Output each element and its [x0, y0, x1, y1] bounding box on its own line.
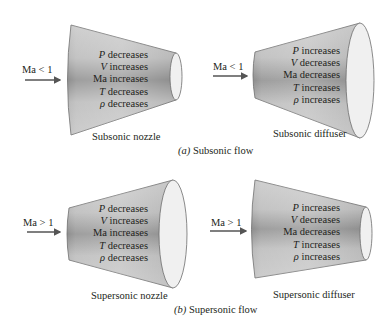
property-row: P decreases [92, 49, 148, 61]
device-label-subsonic-nozzle: Subsonic nozzle [92, 131, 161, 143]
inlet-label-supersonic-diffuser: Ma > 1 [211, 217, 241, 228]
property-row: ρ increases [280, 251, 340, 263]
panel-letter-a: (a) [178, 145, 190, 156]
panel-caption-a: (a) Subsonic flow [178, 145, 253, 156]
panel-title-a: Subsonic flow [190, 145, 253, 156]
inlet-label-subsonic-nozzle: Ma < 1 [22, 64, 52, 75]
property-row: V decreases [280, 57, 340, 69]
device-label-subsonic-diffuser: Subsonic diffuser [273, 128, 347, 140]
property-list-subsonic-nozzle: P decreases V increases Ma increases T d… [92, 49, 148, 110]
property-row: T decreases [92, 240, 148, 252]
property-row: T increases [280, 82, 340, 94]
panel-title-b: Supersonic flow [186, 304, 257, 315]
panel-caption-b: (b) Supersonic flow [174, 304, 257, 315]
device-label-supersonic-diffuser: Supersonic diffuser [273, 289, 355, 301]
property-list-subsonic-diffuser: P increases V decreases Ma decreases T i… [280, 45, 340, 106]
panel-letter-b: (b) [174, 304, 186, 315]
property-list-supersonic-diffuser: P increases V decreases Ma decreases T i… [280, 202, 340, 263]
inlet-label-supersonic-nozzle: Ma > 1 [23, 217, 53, 228]
property-row: P increases [280, 202, 340, 214]
property-row: P decreases [92, 203, 148, 215]
property-row: ρ decreases [92, 98, 148, 110]
property-row: Ma increases [92, 227, 148, 239]
inlet-label-subsonic-diffuser: Ma < 1 [213, 61, 243, 72]
property-row: V increases [92, 61, 148, 73]
property-row: Ma increases [92, 73, 148, 85]
property-row: V increases [92, 215, 148, 227]
property-row: Ma decreases [280, 69, 340, 81]
property-row: T increases [280, 239, 340, 251]
property-list-supersonic-nozzle: P decreases V increases Ma increases T d… [92, 203, 148, 264]
property-row: Ma decreases [280, 226, 340, 238]
device-label-supersonic-nozzle: Supersonic nozzle [91, 290, 168, 302]
property-row: V decreases [280, 214, 340, 226]
property-row: ρ increases [280, 94, 340, 106]
property-row: P increases [280, 45, 340, 57]
property-row: ρ decreases [92, 252, 148, 264]
property-row: T decreases [92, 86, 148, 98]
